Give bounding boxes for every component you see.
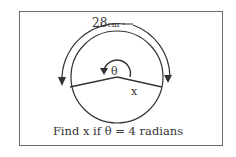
arrowhead-right-icon	[164, 75, 172, 83]
radius-right	[117, 77, 162, 87]
arrowhead-left-icon	[58, 77, 66, 86]
angle-arrowhead-icon	[100, 68, 108, 75]
question-caption: Find x if θ = 4 radians	[0, 124, 236, 138]
radius-left	[70, 77, 117, 87]
angle-label: θ	[111, 65, 118, 78]
arc-length-label: 28cm	[92, 16, 120, 30]
radius-label: x	[131, 85, 138, 98]
